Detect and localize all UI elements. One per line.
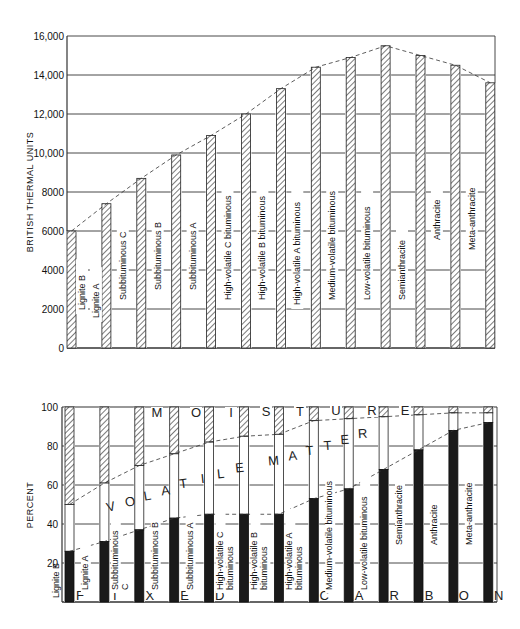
volatile-matter-segment <box>240 436 249 514</box>
bar-category-label: Lignite B <box>51 563 61 598</box>
volatile-matter-region-letter: T <box>323 438 332 454</box>
bar-category-label: Subbituminous <box>110 530 120 590</box>
fixed-carbon-segment <box>135 530 144 602</box>
fixed-carbon-segment <box>240 514 249 602</box>
moisture-segment <box>379 407 388 417</box>
moisture-region-letter: T <box>296 404 304 419</box>
moisture-segment <box>274 407 283 434</box>
bar-category-label: Medium-volatile bituminous <box>324 480 334 590</box>
fixed-carbon-segment <box>170 518 179 602</box>
moisture-segment <box>240 407 249 436</box>
moisture-region-letter: S <box>262 404 271 419</box>
bar-category-label: Subbituminous A <box>188 222 198 290</box>
y-tick-label: 80 <box>47 441 59 452</box>
bar-category-label: Lignite A <box>91 283 101 318</box>
bar-category-label: High-volatile A <box>284 532 294 590</box>
coal-rank-charts: 16,00014,00012,00010,0008000600040002000… <box>0 0 520 629</box>
bar-category-label: Subbituminous B <box>153 222 163 290</box>
moisture-segment <box>100 407 109 483</box>
moisture-region-letter: I <box>229 405 233 420</box>
bar-category-label: Subbituminous B <box>150 522 160 590</box>
btu-bar <box>276 89 285 348</box>
fixed-carbon-segment <box>379 469 388 602</box>
y-tick-label: 60 <box>47 480 59 491</box>
bar-category-label: High-volatile C bituminous <box>223 195 233 300</box>
btu-bar <box>346 57 355 348</box>
y-tick-label: 0 <box>58 343 64 354</box>
y-tick-label: 2000 <box>42 304 65 315</box>
bar-category-label: Subbituminous A <box>185 522 195 590</box>
moisture-segment <box>309 407 318 421</box>
btu-bar <box>486 83 495 348</box>
y-tick-label: 4000 <box>42 265 65 276</box>
moisture-region-letter: U <box>331 403 340 418</box>
bar-category-label: C <box>120 583 130 590</box>
btu-bar <box>311 67 320 348</box>
bar-category-label: High-volatile B <box>249 532 259 590</box>
bar-category-label: Semianthracite <box>394 485 404 545</box>
y-axis-label: PERCENT <box>25 482 35 529</box>
fixed-carbon-segment <box>65 551 74 602</box>
bar-category-label: Medium-volatile bituminous <box>327 190 337 300</box>
btu-bar <box>102 204 111 348</box>
bar-category-label: bituminous <box>294 546 304 590</box>
fixed-carbon-segment <box>414 450 423 602</box>
y-tick-label: 8000 <box>42 187 65 198</box>
btu-bar <box>451 65 460 348</box>
volatile-matter-segment <box>205 442 214 514</box>
fixed-carbon-region-letter: N <box>494 588 503 603</box>
volatile-matter-segment <box>379 417 388 470</box>
btu-bar <box>67 231 76 348</box>
percent-composition-chart: 10080604020PERCENTMOISTUREVOLATILEMATTER… <box>25 402 503 604</box>
bar-category-label: Meta-anthracite <box>467 187 477 250</box>
btu-bar <box>172 155 181 348</box>
volatile-matter-segment <box>274 434 283 514</box>
fixed-carbon-segment <box>274 514 283 602</box>
volatile-matter-region-letter: L <box>142 488 152 504</box>
btu-bar <box>381 46 390 348</box>
bar-category-label: High-volatile B bituminous <box>257 195 267 300</box>
bar-category-label: High-volatile C <box>215 531 225 590</box>
bar-category-label: bituminous <box>259 546 269 590</box>
fixed-carbon-region-letter: B <box>425 588 434 603</box>
bar-category-label: Anthracite <box>429 504 439 545</box>
volatile-matter-segment <box>65 505 74 552</box>
moisture-region-letter: M <box>152 405 163 420</box>
volatile-matter-region-letter: T <box>178 476 188 492</box>
fixed-carbon-region-letter: R <box>389 588 398 603</box>
y-tick-label: 14,000 <box>33 70 64 81</box>
volatile-matter-region-letter: M <box>268 453 280 469</box>
fixed-carbon-segment <box>449 430 458 602</box>
volatile-matter-segment <box>484 413 493 423</box>
bar-category-label: bituminous <box>225 546 235 590</box>
volatile-matter-segment <box>170 454 179 518</box>
btu-bar <box>242 114 251 348</box>
bar-category-label: High-volatile A bituminous <box>292 201 302 305</box>
moisture-region-letter: E <box>401 403 410 418</box>
bar-category-label: Semianthracite <box>397 240 407 300</box>
moisture-region-letter: O <box>191 405 201 420</box>
bar-category-label: Low-volatile bituminous <box>359 496 369 590</box>
bar-category-label: Meta-anthracite <box>464 482 474 545</box>
volatile-matter-segment <box>414 415 423 450</box>
y-tick-label: 10,000 <box>33 148 64 159</box>
volatile-matter-region-letter: R <box>357 426 367 442</box>
volatile-matter-region-letter: A <box>288 448 298 464</box>
moisture-segment <box>205 407 214 442</box>
volatile-matter-region-letter: E <box>340 432 350 448</box>
btu-chart: 16,00014,00012,00010,0008000600040002000… <box>25 31 496 354</box>
moisture-segment <box>170 407 179 454</box>
y-tick-label: 12,000 <box>33 109 64 120</box>
moisture-segment <box>414 407 423 415</box>
y-axis-label: BRITISH THERMAL UNITS <box>25 132 35 253</box>
y-tick-label: 100 <box>41 402 58 413</box>
moisture-segment <box>135 407 144 466</box>
bar-category-label: Lignite A <box>80 555 90 590</box>
moisture-region-letter: R <box>367 403 376 418</box>
moisture-segment <box>65 407 74 505</box>
fixed-carbon-region-letter: O <box>459 588 469 603</box>
fixed-carbon-segment <box>309 499 318 602</box>
fixed-carbon-segment <box>205 514 214 602</box>
volatile-matter-region-letter: L <box>216 466 225 482</box>
volatile-matter-segment <box>449 413 458 431</box>
